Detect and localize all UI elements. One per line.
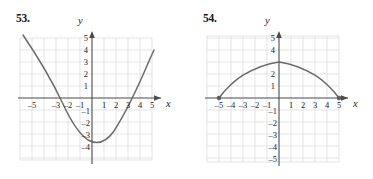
y-axis-label-54: y xyxy=(265,15,270,26)
x-axis-label-53: x xyxy=(166,98,171,109)
problem-54: 54. xyxy=(187,0,373,179)
svg-text:2: 2 xyxy=(114,100,118,110)
svg-text:2: 2 xyxy=(84,69,88,79)
svg-text:1: 1 xyxy=(84,81,88,91)
svg-text:3: 3 xyxy=(313,100,317,110)
svg-text:1: 1 xyxy=(289,100,293,110)
svg-text:1: 1 xyxy=(271,81,275,91)
y-tick-labels-53: 5 4 3 2 1 –1 –2 –3 –4 xyxy=(81,33,91,151)
svg-text:1: 1 xyxy=(102,100,106,110)
problem-53: 53. xyxy=(0,0,186,179)
graph-53: 5 4 3 2 1 –1 –2 –3 –4 –5 –3 –2 –1 1 xyxy=(18,28,168,166)
x-tick-labels-54: –5 –4 –3 –2 –1 1 2 3 4 5 xyxy=(214,100,341,110)
svg-text:–5: –5 xyxy=(27,100,37,110)
svg-text:–4: –4 xyxy=(226,100,236,110)
svg-text:2: 2 xyxy=(301,100,305,110)
svg-text:5: 5 xyxy=(84,33,88,43)
svg-text:5: 5 xyxy=(337,100,341,110)
svg-text:5: 5 xyxy=(150,100,154,110)
svg-text:–4: –4 xyxy=(81,142,91,152)
graph-54: 5 4 2 1 –1 –2 –3 –4 –5 –5 –4 –3 –2 –1 1 xyxy=(205,28,355,166)
svg-text:–2: –2 xyxy=(250,100,260,110)
graph-54-svg: 5 4 2 1 –1 –2 –3 –4 –5 –5 –4 –3 –2 –1 1 xyxy=(205,28,355,166)
svg-text:3: 3 xyxy=(84,57,88,67)
svg-text:–5: –5 xyxy=(214,100,224,110)
x-axis-arrow-54 xyxy=(341,95,348,101)
svg-text:–1: –1 xyxy=(75,100,85,110)
svg-text:–2: –2 xyxy=(63,100,73,110)
svg-text:–2: –2 xyxy=(268,118,278,128)
x-tick-labels-53: –5 –3 –2 –1 1 2 3 4 5 xyxy=(27,100,154,110)
svg-text:–2: –2 xyxy=(81,118,91,128)
svg-text:3: 3 xyxy=(126,100,130,110)
svg-text:–3: –3 xyxy=(238,100,248,110)
x-axis-label-54: x xyxy=(353,98,358,109)
worksheet-page: 53. xyxy=(0,0,373,179)
problem-number-53: 53. xyxy=(16,12,30,24)
svg-text:–3: –3 xyxy=(81,130,91,140)
svg-text:5: 5 xyxy=(271,33,275,43)
y-axis-arrow-54 xyxy=(276,31,282,38)
problem-number-54: 54. xyxy=(203,12,217,24)
svg-text:4: 4 xyxy=(325,100,330,110)
svg-text:–5: –5 xyxy=(268,154,278,164)
x-axis-arrow-53 xyxy=(154,95,161,101)
svg-text:–1: –1 xyxy=(262,100,272,110)
y-axis-arrow-53 xyxy=(89,31,95,38)
graph-53-svg: 5 4 3 2 1 –1 –2 –3 –4 –5 –3 –2 –1 1 xyxy=(18,28,168,166)
svg-text:–3: –3 xyxy=(268,130,278,140)
y-axis-label-53: y xyxy=(78,15,83,26)
svg-text:4: 4 xyxy=(138,100,143,110)
svg-text:–3: –3 xyxy=(51,100,61,110)
svg-text:2: 2 xyxy=(271,69,275,79)
svg-text:–4: –4 xyxy=(268,142,278,152)
